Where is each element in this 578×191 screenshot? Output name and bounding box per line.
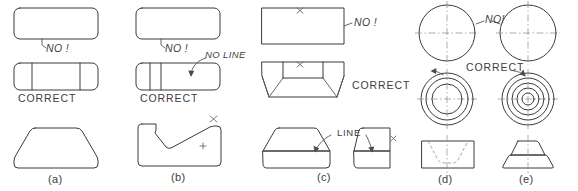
panel-c-bottom-left-trapezoid <box>263 128 330 151</box>
panel-d-correct-arrowhead <box>431 68 437 74</box>
panel-c-caption: (c) <box>317 172 331 183</box>
panel-b-plus-mark <box>200 143 206 149</box>
panel-c-line-leader-left <box>316 135 331 150</box>
panel-c-bottom-right-x-mark <box>391 136 396 141</box>
panel-c-top-x-mark <box>297 8 303 13</box>
panel-b-no-label: NO ! <box>165 43 188 54</box>
panel-b-no-line-label: NO LINE <box>205 50 246 60</box>
panel-c-mid-x-mark <box>297 62 303 67</box>
panel-a-no-label: NO ! <box>46 43 69 54</box>
drawing-canvas <box>0 0 578 191</box>
panel-e-geometry <box>492 1 560 174</box>
panel-b-no-line-arrowhead <box>188 71 194 77</box>
panel-b-caption: (b) <box>171 172 185 183</box>
panel-c-correct-label: CORRECT <box>352 80 410 91</box>
panel-c-no-leader <box>344 23 352 26</box>
panel-c-line-arrowhead-right <box>368 147 374 153</box>
panel-c-bottom-right-slab <box>354 151 390 168</box>
panel-b-correct-label: CORRECT <box>140 93 198 104</box>
panel-b-mid-rounded-rect <box>136 63 220 90</box>
panel-a-bottom-trapezoid <box>14 128 98 168</box>
panel-e-caption: (e) <box>519 174 533 185</box>
panel-a-top-rounded-rect <box>14 8 98 39</box>
panel-d-geometry <box>415 1 484 174</box>
technical-drawing-figure: NO ! CORRECT (a) NO ! NO LINE CORRECT (b… <box>0 0 578 191</box>
panel-a-geometry <box>14 8 98 168</box>
panel-d-caption: (d) <box>438 174 452 185</box>
panel-c-mid-corner-right <box>337 76 344 97</box>
panel-b-x-mark <box>210 116 217 122</box>
panel-c-mid-runout-left <box>269 78 283 97</box>
panel-a-correct-label: CORRECT <box>18 93 76 104</box>
panel-b-top-rounded-rect <box>136 8 220 39</box>
panel-b-bottom-notched-block <box>138 124 221 166</box>
panel-a-mid-rounded-rect <box>14 63 98 90</box>
panel-de-no-label: NO! <box>485 14 505 25</box>
panel-b-geometry <box>136 8 221 166</box>
panel-de-correct-label: CORRECT <box>466 62 524 73</box>
panel-d-bottom-hidden-recess <box>428 141 468 163</box>
panel-c-bottom-left-slab <box>263 151 330 168</box>
panel-c-mid-corner-left <box>262 76 269 97</box>
panel-c-line-label: LINE <box>337 128 361 138</box>
panel-a-caption: (a) <box>48 174 62 185</box>
panel-c-mid-runout-right <box>323 78 337 97</box>
panel-c-no-label: NO ! <box>354 17 377 28</box>
panel-d-no-leader <box>476 21 484 24</box>
